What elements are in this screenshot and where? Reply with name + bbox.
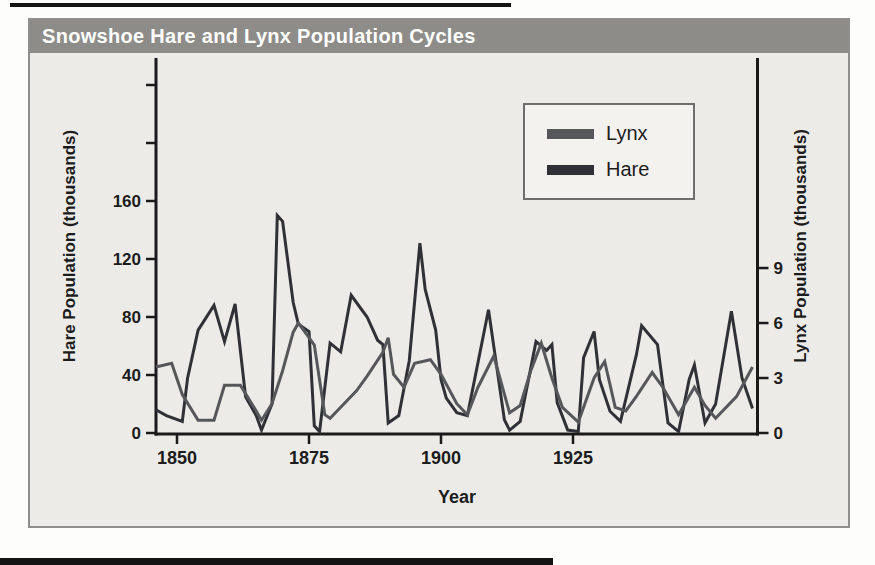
legend-label-hare: Hare: [606, 158, 649, 181]
x-axis-title: Year: [438, 487, 476, 508]
legend-item-lynx: Lynx: [547, 122, 693, 145]
chart-legend: Lynx Hare: [523, 103, 695, 200]
x-axis-tick-label: 1875: [289, 448, 329, 468]
legend-label-lynx: Lynx: [606, 122, 648, 145]
left-axis-tick-label: 40: [122, 366, 141, 385]
right-axis-tick-label: 9: [774, 259, 783, 278]
right-axis-tick-label: 6: [774, 314, 783, 333]
page: { "page": { "top_rule_color": "#141414",…: [0, 0, 875, 565]
hare-line-swatch: [547, 165, 594, 175]
right-axis-tick-label: 3: [774, 369, 783, 388]
legend-item-hare: Hare: [547, 158, 693, 181]
left-axis-title: Hare Population (thousands): [60, 130, 80, 362]
x-axis-tick-label: 1850: [157, 448, 197, 468]
left-axis-tick-label: 160: [113, 192, 141, 211]
right-axis-title: Lynx Population (thousands): [791, 129, 811, 363]
chart-plot: 0408012016003691850187519001925: [0, 0, 875, 565]
right-axis-tick-label: 0: [774, 424, 783, 443]
page-rule-bottom: [0, 558, 553, 565]
x-axis-tick-label: 1900: [421, 448, 461, 468]
lynx-line-swatch: [547, 129, 594, 139]
left-axis-tick-label: 80: [122, 308, 141, 327]
left-axis-tick-label: 120: [113, 250, 141, 269]
left-axis-tick-label: 0: [132, 424, 141, 443]
x-axis-tick-label: 1925: [553, 448, 593, 468]
